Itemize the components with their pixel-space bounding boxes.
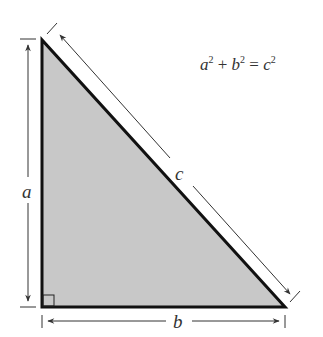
label-b: b [173,311,183,332]
right-triangle [42,40,285,307]
eq-c: c [263,55,271,74]
eq-a: a [200,55,209,74]
eq-exp-c: 2 [271,54,276,65]
pythagorean-equation: a2 + b2 = c2 [200,54,276,75]
label-a: a [22,181,32,202]
triangle-diagram: a b c [0,0,323,337]
eq-exp-b: 2 [240,54,245,65]
eq-plus: + [218,55,228,74]
eq-equals: = [249,55,259,74]
eq-exp-a: 2 [209,54,214,65]
label-c: c [175,163,184,184]
eq-b: b [232,55,241,74]
